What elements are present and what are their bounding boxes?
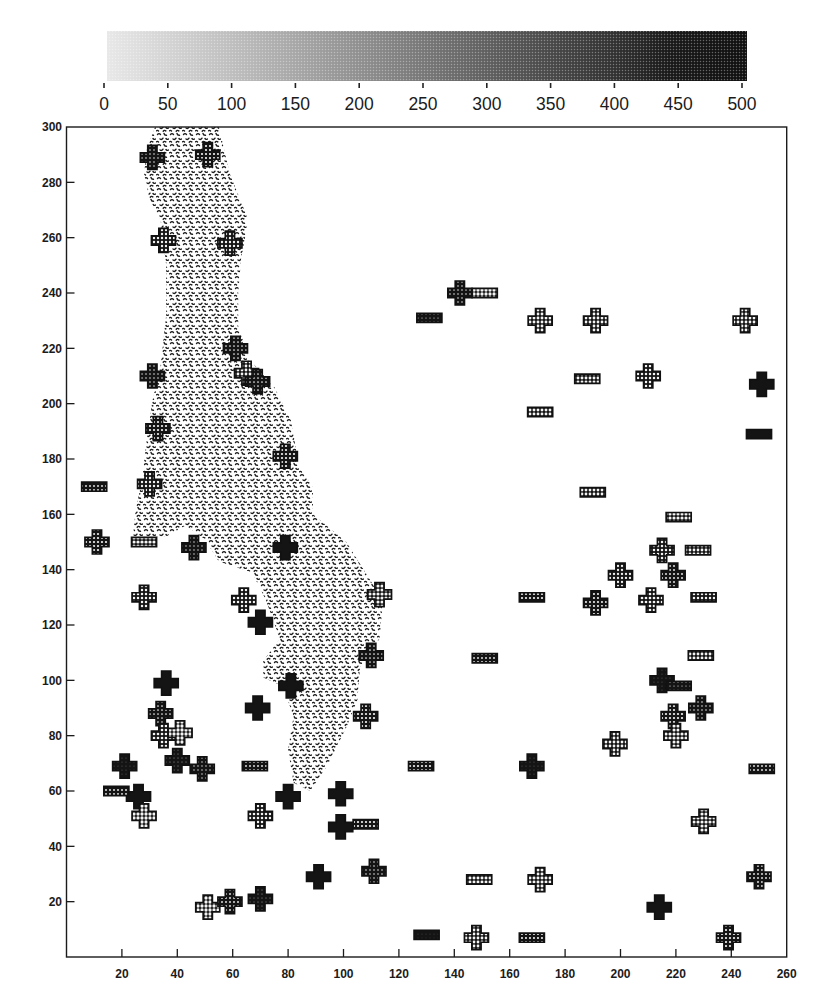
cross-marker: [661, 563, 685, 587]
y-tick-label: 180: [42, 452, 62, 466]
rect-marker: [575, 374, 600, 383]
rect-marker: [686, 546, 711, 555]
cross-marker: [584, 309, 608, 333]
y-tick-label: 200: [42, 397, 62, 411]
rect-marker: [409, 762, 434, 771]
y-tick-label: 140: [42, 563, 62, 577]
colorbar-tick-label: 150: [281, 94, 310, 114]
x-tick-label: 60: [226, 967, 240, 981]
cross-marker: [647, 895, 671, 919]
y-tick-label: 260: [42, 231, 62, 245]
rect-marker: [104, 786, 129, 795]
y-tick-label: 60: [49, 784, 63, 798]
cross-marker: [584, 591, 608, 615]
cross-marker: [165, 749, 189, 773]
x-tick-label: 160: [500, 967, 520, 981]
rect-marker: [242, 762, 267, 771]
cross-marker: [154, 671, 178, 695]
x-tick-label: 180: [555, 967, 575, 981]
cross-marker: [248, 887, 272, 911]
rect-marker: [472, 654, 497, 663]
cross-marker: [650, 538, 674, 562]
cross-marker: [232, 588, 256, 612]
colorbar-tick-label: 350: [536, 94, 565, 114]
y-tick-label: 120: [42, 618, 62, 632]
y-tick-label: 300: [42, 120, 62, 134]
colorbar-tick-label: 400: [600, 94, 629, 114]
cross-marker: [362, 859, 386, 883]
cross-marker: [354, 704, 378, 728]
cross-marker: [168, 721, 192, 745]
x-tick-label: 120: [389, 967, 409, 981]
rect-marker: [519, 593, 544, 602]
cross-marker: [307, 865, 331, 889]
y-tick-label: 280: [42, 176, 62, 190]
rect-marker: [467, 875, 492, 884]
cross-marker: [528, 309, 552, 333]
colorbar-tick-label: 450: [664, 94, 693, 114]
cross-marker: [639, 588, 663, 612]
x-tick-label: 100: [333, 967, 353, 981]
cross-marker: [132, 585, 156, 609]
x-tick-label: 200: [610, 967, 630, 981]
cross-marker: [747, 865, 771, 889]
cross-marker: [609, 563, 633, 587]
cross-marker: [182, 536, 206, 560]
rect-marker: [666, 513, 691, 522]
colorbar-tick-label: 250: [408, 94, 437, 114]
cross-marker: [248, 610, 272, 634]
rect-marker: [353, 820, 378, 829]
cross-marker: [248, 804, 272, 828]
y-tick-label: 220: [42, 342, 62, 356]
x-axis: 20406080100120140160180200220240260: [115, 949, 797, 981]
cross-marker: [329, 815, 353, 839]
rect-marker: [519, 933, 544, 942]
rect-marker: [82, 482, 107, 491]
cross-marker: [636, 364, 660, 388]
x-tick-label: 220: [666, 967, 686, 981]
y-tick-label: 160: [42, 508, 62, 522]
cross-marker: [246, 696, 270, 720]
cross-marker: [528, 868, 552, 892]
rect-marker: [580, 488, 605, 497]
x-tick-label: 240: [721, 967, 741, 981]
rect-marker: [414, 930, 439, 939]
colorbar-tick-label: 0: [99, 94, 109, 114]
cross-marker: [276, 785, 300, 809]
y-tick-label: 100: [42, 674, 62, 688]
x-tick-label: 20: [115, 967, 129, 981]
cross-marker: [664, 724, 688, 748]
cross-marker: [149, 702, 173, 726]
cross-marker: [448, 281, 472, 305]
x-tick-label: 140: [444, 967, 464, 981]
cross-marker: [750, 372, 774, 396]
cross-marker: [85, 530, 109, 554]
cross-marker: [692, 809, 716, 833]
rect-marker: [132, 537, 157, 546]
x-tick-label: 80: [281, 967, 295, 981]
rect-marker: [749, 764, 774, 773]
cross-marker: [329, 782, 353, 806]
rect-marker: [528, 407, 553, 416]
colorbar-tick-label: 200: [345, 94, 374, 114]
rect-marker: [747, 430, 772, 439]
cross-marker: [733, 309, 757, 333]
colorbar-ticks: 050100150200250300350400450500: [99, 83, 757, 114]
plot-area: 20406080100120140160180200220240260 2040…: [42, 120, 797, 981]
rect-marker: [472, 288, 497, 297]
rect-marker: [417, 313, 442, 322]
y-tick-label: 20: [49, 895, 63, 909]
cross-marker: [190, 757, 214, 781]
rect-marker: [688, 651, 713, 660]
x-tick-label: 260: [777, 967, 797, 981]
cross-marker: [717, 926, 741, 950]
colorbar: 050100150200250300350400450500: [99, 31, 757, 114]
cross-marker: [196, 895, 220, 919]
cross-marker: [603, 732, 627, 756]
cross-marker: [520, 754, 544, 778]
rect-marker: [666, 681, 691, 690]
rect-marker: [691, 593, 716, 602]
colorbar-tick-label: 100: [217, 94, 246, 114]
y-tick-label: 240: [42, 286, 62, 300]
colorbar-tick-label: 500: [727, 94, 756, 114]
